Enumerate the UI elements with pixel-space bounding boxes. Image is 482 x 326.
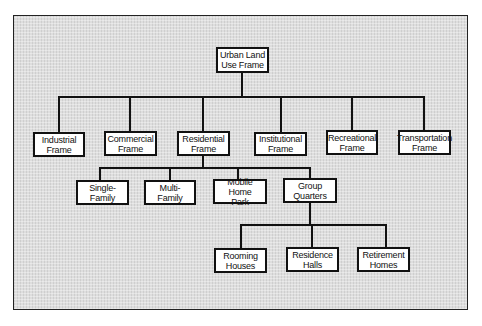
connector-residence-halls: [311, 224, 313, 247]
node-rooming-houses: Rooming Houses: [214, 248, 267, 273]
connector-single-family: [99, 167, 101, 180]
connector-retirement: [385, 224, 387, 247]
connector-multi-family: [169, 167, 171, 180]
node-industrial-frame: Industrial Frame: [33, 132, 85, 157]
connector-recreational: [351, 96, 353, 130]
node-mobile-home-park: Mobile Home Park: [213, 179, 267, 204]
connector-residential-bar: [99, 167, 311, 169]
connector-residential: [202, 96, 204, 131]
connector-root-down: [241, 72, 243, 98]
node-transportation-frame: Transportation Frame: [398, 130, 451, 155]
connector-group-quarters-down: [309, 202, 311, 226]
node-multi-family: Multi- Family: [144, 180, 196, 205]
connector-commercial: [129, 96, 131, 131]
node-residence-halls: Residence Halls: [286, 247, 339, 272]
node-retirement-homes: Retirement Homes: [357, 247, 410, 272]
connector-level1-bar: [58, 96, 425, 98]
connector-institutional: [280, 96, 282, 132]
node-institutional-frame: Institutional Frame: [254, 132, 307, 156]
connector-transportation: [423, 96, 425, 130]
connector-group-quarters: [309, 167, 311, 178]
node-recreational-frame: Recreational Frame: [326, 130, 378, 155]
node-residential-frame: Residential Frame: [177, 131, 230, 156]
node-commercial-frame: Commercial Frame: [104, 131, 157, 156]
node-group-quarters: Group Quarters: [283, 178, 337, 203]
node-single-family: Single- Family: [76, 180, 129, 205]
connector-group-quarters-bar: [240, 224, 387, 226]
connector-rooming: [240, 224, 242, 248]
connector-industrial: [58, 96, 60, 132]
node-urban-land-use-frame: Urban Land Use Frame: [216, 47, 269, 73]
